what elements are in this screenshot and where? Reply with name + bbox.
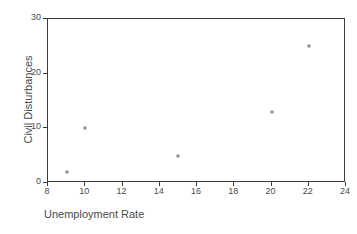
data-point bbox=[65, 171, 68, 174]
x-axis-tick-label: 16 bbox=[191, 187, 201, 196]
data-point bbox=[84, 127, 87, 130]
plot-area bbox=[48, 19, 344, 181]
data-point bbox=[270, 110, 273, 113]
x-axis-tick-label: 20 bbox=[265, 187, 275, 196]
x-axis-title: Unemployment Rate bbox=[44, 208, 144, 221]
x-axis-tick-label: 12 bbox=[116, 187, 126, 196]
scatter-plot-figure: 0102030 81012141618202224 Unemployment R… bbox=[0, 0, 357, 234]
y-axis-tick-label: 30 bbox=[24, 13, 41, 22]
y-axis-title: Civil Disturbances bbox=[22, 25, 35, 175]
plot-frame bbox=[47, 18, 345, 182]
x-axis-tick-label: 14 bbox=[154, 187, 164, 196]
y-axis-tick-label: 0 bbox=[24, 177, 41, 186]
x-axis-tick-label: 18 bbox=[228, 187, 238, 196]
x-axis-tick-label: 10 bbox=[79, 187, 89, 196]
data-point bbox=[307, 45, 310, 48]
x-axis-tick-label: 24 bbox=[340, 187, 350, 196]
x-axis-tick-label: 8 bbox=[44, 187, 49, 196]
x-axis-tick-label: 22 bbox=[303, 187, 313, 196]
data-point bbox=[177, 154, 180, 157]
